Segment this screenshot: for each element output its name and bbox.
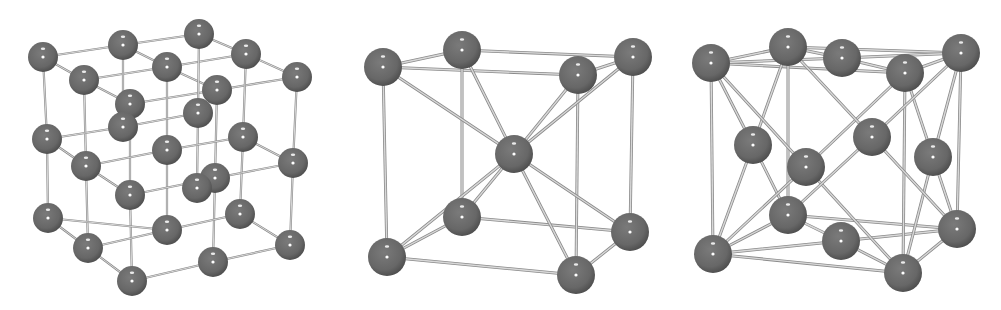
atom-center-dot	[121, 125, 124, 128]
atom-center-dot	[46, 216, 49, 219]
atom-center-dot	[211, 260, 214, 263]
atom-center-dot	[460, 215, 463, 218]
atom-center-dot	[130, 279, 133, 282]
atom-specular-highlight	[903, 61, 907, 64]
atom-specular-highlight	[121, 117, 125, 120]
atom-center-dot	[839, 239, 842, 242]
atom-specular-highlight	[460, 38, 464, 41]
atom-specular-highlight	[241, 127, 245, 130]
atom-specular-highlight	[574, 263, 578, 266]
bond-highlight	[383, 67, 514, 154]
atom-center-dot	[197, 32, 200, 35]
atom-center-dot	[41, 55, 44, 58]
atom-specular-highlight	[288, 235, 292, 238]
atom-center-dot	[385, 255, 388, 258]
atom-center-dot	[512, 152, 515, 155]
atom-center-dot	[751, 143, 754, 146]
atom-specular-highlight	[709, 51, 713, 54]
atom-center-dot	[574, 273, 577, 276]
atom-specular-highlight	[631, 45, 635, 48]
atom-specular-highlight	[213, 168, 217, 171]
atom-specular-highlight	[46, 208, 50, 211]
atom-specular-highlight	[215, 80, 219, 83]
atom-center-dot	[84, 164, 87, 167]
atom-specular-highlight	[955, 217, 959, 220]
atom-specular-highlight	[460, 205, 464, 208]
atom-center-dot	[128, 102, 131, 105]
atom-center-dot	[195, 186, 198, 189]
atom-center-dot	[460, 48, 463, 51]
atom-specular-highlight	[576, 63, 580, 66]
atom-center-dot	[165, 65, 168, 68]
atom-center-dot	[955, 227, 958, 230]
atom-specular-highlight	[870, 125, 874, 128]
atom-center-dot	[628, 230, 631, 233]
atom-center-dot	[786, 45, 789, 48]
atom-specular-highlight	[628, 220, 632, 223]
atom-center-dot	[213, 176, 216, 179]
atom-specular-highlight	[381, 55, 385, 58]
bond-highlight	[387, 257, 576, 275]
atom-specular-highlight	[238, 204, 242, 207]
bond-highlight	[462, 50, 633, 57]
atom-specular-highlight	[291, 153, 295, 156]
bond-highlight	[514, 154, 630, 232]
atom-specular-highlight	[82, 70, 86, 73]
atom-specular-highlight	[197, 24, 201, 27]
atom-specular-highlight	[244, 44, 248, 47]
atom-specular-highlight	[84, 156, 88, 159]
atom-center-dot	[381, 65, 384, 68]
atom-center-dot	[165, 148, 168, 151]
atom-center-dot	[786, 213, 789, 216]
face-centered-cubic-lattice-panel	[692, 28, 980, 292]
atom-center-dot	[709, 61, 712, 64]
bond-highlight	[514, 154, 576, 275]
atom-specular-highlight	[751, 133, 755, 136]
atom-center-dot	[295, 75, 298, 78]
atom-center-dot	[804, 165, 807, 168]
atom-specular-highlight	[786, 35, 790, 38]
atom-specular-highlight	[211, 252, 215, 255]
atom-specular-highlight	[165, 140, 169, 143]
atom-center-dot	[241, 135, 244, 138]
atom-center-dot	[121, 43, 124, 46]
simple-cubic-lattice-panel	[28, 19, 312, 296]
atom-specular-highlight	[385, 245, 389, 248]
atom-center-dot	[959, 51, 962, 54]
atom-specular-highlight	[121, 35, 125, 38]
atom-specular-highlight	[840, 46, 844, 49]
atom-specular-highlight	[45, 129, 49, 132]
atom-center-dot	[931, 155, 934, 158]
atom-specular-highlight	[959, 41, 963, 44]
atom-center-dot	[288, 243, 291, 246]
atom-specular-highlight	[196, 103, 200, 106]
body-centered-cubic-lattice-panel	[364, 31, 652, 294]
atom-center-dot	[244, 52, 247, 55]
atom-center-dot	[196, 111, 199, 114]
crystal-lattice-figure	[0, 0, 1001, 310]
bond-highlight	[383, 67, 578, 75]
atom-specular-highlight	[786, 203, 790, 206]
atom-center-dot	[711, 252, 714, 255]
atom-specular-highlight	[41, 47, 45, 50]
atom-center-dot	[901, 271, 904, 274]
atom-specular-highlight	[512, 142, 516, 145]
atom-specular-highlight	[931, 145, 935, 148]
lattice-diagrams-canvas	[0, 0, 1001, 310]
atom-specular-highlight	[128, 185, 132, 188]
atom-specular-highlight	[195, 178, 199, 181]
atom-specular-highlight	[128, 94, 132, 97]
atom-specular-highlight	[86, 238, 90, 241]
atom-center-dot	[840, 56, 843, 59]
atom-specular-highlight	[711, 242, 715, 245]
atom-center-dot	[870, 135, 873, 138]
atom-specular-highlight	[165, 57, 169, 60]
bond-highlight	[48, 218, 167, 230]
atom-specular-highlight	[130, 271, 134, 274]
atom-specular-highlight	[901, 261, 905, 264]
atom-center-dot	[86, 246, 89, 249]
atom-center-dot	[128, 193, 131, 196]
atom-center-dot	[238, 212, 241, 215]
atom-specular-highlight	[804, 155, 808, 158]
atom-specular-highlight	[165, 220, 169, 223]
